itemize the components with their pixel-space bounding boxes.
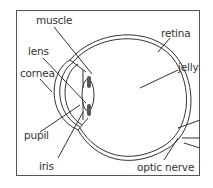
label-pupil: pupil — [24, 130, 49, 141]
cornea-inner — [60, 62, 80, 127]
label-iris: iris — [39, 161, 54, 172]
eyeball-outer-wall — [70, 35, 191, 161]
label-lens: lens — [28, 46, 49, 57]
label-optic-nerve: optic nerve — [137, 162, 194, 173]
label-muscle: muscle — [36, 15, 72, 26]
muscle-lower — [87, 104, 91, 116]
optic-nerve-line-3 — [184, 143, 200, 148]
leader-cornea — [40, 79, 52, 92]
muscle-upper — [87, 76, 91, 88]
optic-nerve-line-1 — [178, 120, 200, 128]
leader-lens — [43, 58, 86, 103]
label-cornea: cornea — [20, 68, 55, 79]
leader-iris — [58, 112, 83, 158]
eyeball-inner-wall — [73, 39, 187, 157]
label-retina: retina — [161, 28, 190, 39]
leader-jelly — [140, 70, 178, 88]
label-jelly: jelly — [178, 62, 198, 73]
